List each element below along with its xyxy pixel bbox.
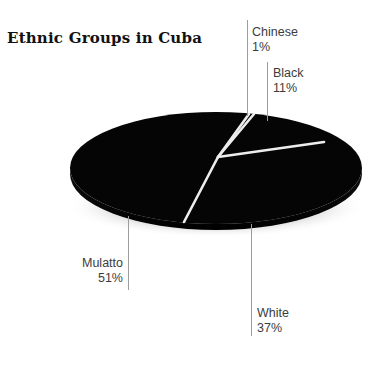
- slice-label-mulatto: Mulatto 51%: [48, 256, 123, 286]
- slice-label-white-name: White: [257, 306, 289, 320]
- slice-label-chinese-name: Chinese: [252, 25, 298, 39]
- slice-label-black: Black 11%: [273, 66, 304, 96]
- slice-label-black-pct: 11%: [273, 81, 304, 96]
- slice-label-chinese-pct: 1%: [252, 40, 298, 55]
- slice-label-white: White 37%: [257, 306, 289, 336]
- slice-label-mulatto-pct: 51%: [48, 271, 123, 286]
- pie-chart-graphic: [0, 0, 375, 368]
- chart-canvas: Ethnic Groups in Cuba: [0, 0, 375, 368]
- slice-label-mulatto-name: Mulatto: [82, 256, 123, 270]
- slice-label-black-name: Black: [273, 66, 304, 80]
- slice-label-white-pct: 37%: [257, 321, 289, 336]
- pie-top-face: [70, 112, 362, 224]
- slice-label-chinese: Chinese 1%: [252, 25, 298, 55]
